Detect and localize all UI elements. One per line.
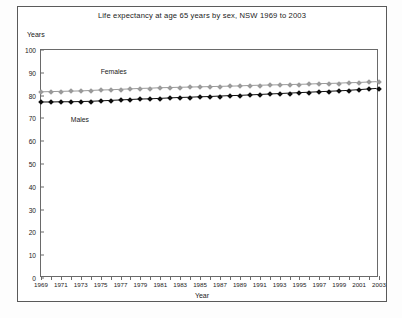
x-axis-tick-label: 1975: [94, 281, 108, 288]
x-axis-tick-label: 1987: [213, 281, 227, 288]
x-axis-tick-label: 1973: [74, 281, 88, 288]
series-label-males: Males: [71, 116, 89, 123]
x-axis-tick-mark: [101, 276, 102, 280]
x-axis-tick-mark: [200, 276, 201, 280]
x-axis-tick-mark: [329, 276, 330, 280]
y-axis-tick-label: 90: [7, 69, 41, 76]
x-axis-tick-mark: [290, 276, 291, 280]
plot-area: 1009080706050403020100 19691971197319751…: [40, 49, 378, 277]
x-axis-tick-mark: [299, 276, 300, 280]
y-axis-tick-label: 10: [7, 252, 41, 259]
y-axis-label: Years: [27, 31, 45, 38]
x-axis-tick-mark: [130, 276, 131, 280]
x-axis-tick-label: 1995: [293, 281, 307, 288]
x-axis-tick-label: 1993: [273, 281, 287, 288]
x-axis-tick-mark: [81, 276, 82, 280]
x-axis-tick-mark: [319, 276, 320, 280]
x-axis-tick-mark: [220, 276, 221, 280]
x-axis-tick-mark: [280, 276, 281, 280]
x-axis-tick-mark: [111, 276, 112, 280]
x-axis-tick-label: 1977: [114, 281, 128, 288]
x-axis-tick-mark: [150, 276, 151, 280]
x-axis-tick-mark: [71, 276, 72, 280]
x-axis-tick-mark: [240, 276, 241, 280]
x-axis-tick-mark: [51, 276, 52, 280]
x-axis-tick-mark: [230, 276, 231, 280]
x-axis-tick-mark: [379, 276, 380, 280]
figure: Life expectancy at age 65 years by sex, …: [0, 0, 402, 318]
y-axis-tick-label: 30: [7, 206, 41, 213]
y-axis-tick-label: 80: [7, 92, 41, 99]
x-axis-tick-mark: [250, 276, 251, 280]
y-axis-tick-label: 20: [7, 229, 41, 236]
x-axis-tick-label: 1981: [153, 281, 167, 288]
x-axis-tick-label: 1979: [134, 281, 148, 288]
x-axis-tick-label: 2003: [372, 281, 386, 288]
x-axis-tick-mark: [369, 276, 370, 280]
x-axis-tick-mark: [180, 276, 181, 280]
x-axis-tick-label: 1983: [173, 281, 187, 288]
x-axis-tick-mark: [170, 276, 171, 280]
y-axis-tick-label: 60: [7, 138, 41, 145]
x-axis-tick-mark: [309, 276, 310, 280]
y-axis-tick-label: 100: [7, 47, 41, 54]
x-axis-tick-mark: [210, 276, 211, 280]
x-axis-tick-mark: [349, 276, 350, 280]
y-axis-tick-label: 70: [7, 115, 41, 122]
y-axis-tick-label: 40: [7, 183, 41, 190]
x-axis-tick-mark: [160, 276, 161, 280]
x-axis-tick-mark: [91, 276, 92, 280]
x-axis-tick-mark: [260, 276, 261, 280]
x-axis-label: Year: [17, 292, 387, 299]
x-axis-tick-mark: [121, 276, 122, 280]
x-axis-tick-mark: [61, 276, 62, 280]
series-label-females: Females: [101, 68, 127, 75]
x-axis-tick-mark: [140, 276, 141, 280]
x-axis-tick-label: 1971: [54, 281, 68, 288]
x-axis-tick-label: 1999: [332, 281, 346, 288]
x-axis-tick-label: 1985: [193, 281, 207, 288]
chart-title: Life expectancy at age 65 years by sex, …: [17, 11, 387, 20]
x-axis-tick-mark: [339, 276, 340, 280]
y-axis-tick-label: 50: [7, 161, 41, 168]
x-axis-tick-mark: [270, 276, 271, 280]
x-axis-tick-mark: [359, 276, 360, 280]
x-axis-tick-label: 1991: [253, 281, 267, 288]
x-axis-tick-label: 1969: [34, 281, 48, 288]
x-axis-tick-mark: [190, 276, 191, 280]
x-axis-tick-label: 2001: [352, 281, 366, 288]
x-axis-tick-label: 1989: [233, 281, 247, 288]
x-axis-tick-mark: [41, 276, 42, 280]
x-axis-tick-label: 1997: [312, 281, 326, 288]
